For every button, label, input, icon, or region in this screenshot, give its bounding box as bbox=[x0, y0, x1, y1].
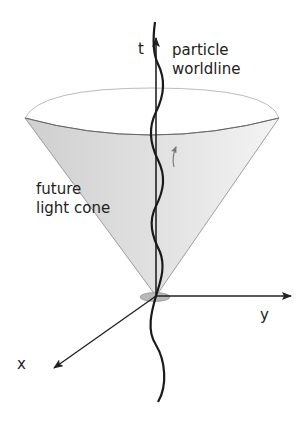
x-axis-label: x bbox=[17, 355, 26, 373]
y-axis-label: y bbox=[260, 306, 269, 324]
worldline-label-line2: worldline bbox=[172, 60, 240, 78]
cone-label-line1: future bbox=[36, 180, 81, 198]
worldline-label-line1: particle bbox=[172, 41, 229, 59]
cone-rim-back bbox=[25, 88, 279, 118]
t-axis-label: t bbox=[138, 40, 144, 58]
x-axis bbox=[54, 296, 156, 368]
cone-label-line2: light cone bbox=[36, 199, 110, 217]
light-cone-diagram: t particle worldline future light cone y… bbox=[0, 0, 307, 422]
